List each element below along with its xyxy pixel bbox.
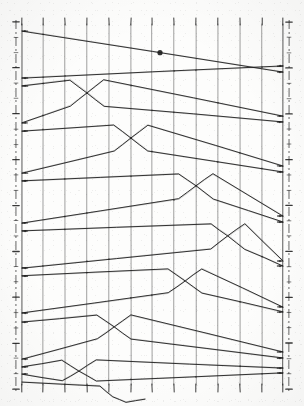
endpoint-dot bbox=[279, 171, 281, 173]
highlight-node-marker bbox=[157, 50, 162, 55]
wire-grid-node bbox=[261, 256, 263, 258]
endpoint-dot bbox=[279, 357, 281, 359]
wire-grid-node bbox=[130, 137, 132, 139]
endpoint-dot bbox=[24, 85, 26, 87]
endpoint-dot bbox=[279, 71, 281, 73]
wire-grid-node bbox=[195, 185, 197, 187]
wire-grid-node bbox=[173, 111, 175, 113]
wire-grid-node bbox=[261, 373, 263, 375]
wire-grid-node bbox=[42, 115, 44, 117]
wire-grid-node bbox=[195, 69, 197, 71]
wire-grid-node bbox=[130, 85, 132, 87]
endpoint-dot bbox=[24, 366, 26, 368]
endpoint-dot bbox=[279, 215, 281, 217]
wire-grid-node bbox=[173, 199, 175, 201]
wire-grid-node bbox=[86, 92, 88, 94]
wire-grid-node bbox=[195, 376, 197, 378]
wire-grid-node bbox=[42, 83, 44, 85]
endpoint-dot bbox=[279, 306, 281, 308]
wire-grid-node bbox=[86, 260, 88, 262]
wire-grid-node bbox=[130, 175, 132, 177]
endpoint-dot bbox=[24, 30, 26, 32]
wire-grid-node bbox=[239, 152, 241, 154]
endpoint-dot bbox=[279, 121, 281, 123]
endpoint-dot bbox=[24, 122, 26, 124]
endpoint-dot bbox=[279, 221, 281, 223]
figure-root bbox=[0, 0, 304, 406]
endpoint-dot bbox=[279, 115, 281, 117]
wire-grid-node bbox=[151, 109, 153, 111]
endpoint-dot bbox=[279, 265, 281, 267]
wire-crossing-diagram bbox=[0, 0, 304, 406]
endpoint-dot bbox=[24, 130, 26, 132]
wire-grid-node bbox=[130, 379, 132, 381]
wire-grid-node bbox=[151, 151, 153, 153]
wire-grid-node bbox=[64, 229, 66, 231]
endpoint-dot bbox=[24, 230, 26, 232]
wire-grid-node bbox=[108, 258, 110, 260]
wire-grid-node bbox=[239, 301, 241, 303]
wire-grid-node bbox=[173, 70, 175, 72]
endpoint-dot bbox=[24, 222, 26, 224]
wire-grid-node bbox=[42, 33, 44, 35]
wire-grid-node bbox=[86, 272, 88, 274]
endpoint-dot bbox=[24, 312, 26, 314]
endpoint-dot bbox=[279, 260, 281, 262]
wire-grid-node bbox=[64, 178, 66, 180]
wire-grid-node bbox=[239, 365, 241, 367]
endpoint-dot bbox=[24, 321, 26, 323]
wire-grid-node bbox=[42, 129, 44, 131]
wire-grid-node bbox=[151, 294, 153, 296]
wire-grid-node bbox=[42, 76, 44, 78]
wire-grid-node bbox=[261, 168, 263, 170]
wire-grid-node bbox=[42, 265, 44, 267]
endpoint-dot bbox=[24, 358, 26, 360]
wire-grid-node bbox=[217, 161, 219, 163]
endpoint-dot bbox=[24, 275, 26, 277]
endpoint-dot bbox=[24, 180, 26, 182]
endpoint-dot bbox=[24, 172, 26, 174]
wire-grid-node bbox=[217, 102, 219, 104]
wire-grid-node bbox=[130, 297, 132, 299]
endpoint-dot bbox=[279, 367, 281, 369]
endpoint-dot bbox=[24, 267, 26, 269]
wire-grid-node bbox=[64, 80, 66, 82]
endpoint-dot bbox=[279, 311, 281, 313]
wire-grid-node bbox=[86, 212, 88, 214]
endpoint-dot bbox=[279, 65, 281, 67]
endpoint-dot bbox=[279, 372, 281, 374]
endpoint-dot bbox=[279, 351, 281, 353]
wire-grid-node bbox=[261, 66, 263, 68]
wire-grid-node bbox=[64, 215, 66, 217]
endpoint-dot bbox=[279, 165, 281, 167]
wire-grid-node bbox=[64, 75, 66, 77]
endpoint-dot bbox=[24, 77, 26, 79]
endpoint-dot bbox=[24, 373, 26, 375]
